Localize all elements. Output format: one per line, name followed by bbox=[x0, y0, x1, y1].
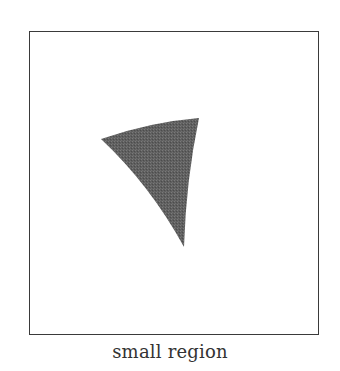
region-fill bbox=[101, 118, 199, 247]
small-region-shape bbox=[0, 0, 340, 371]
figure: small region bbox=[0, 0, 340, 371]
figure-caption: small region bbox=[0, 341, 340, 362]
